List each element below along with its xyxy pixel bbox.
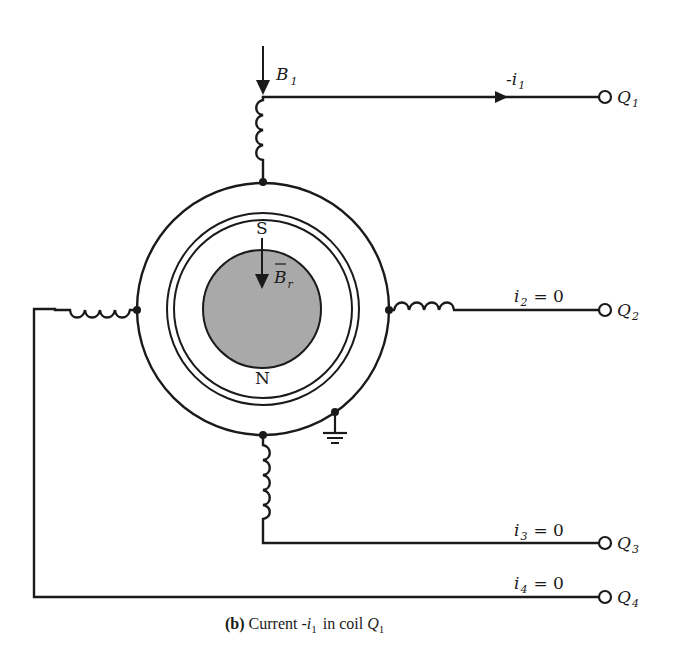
coil-q4-icon (34, 309, 599, 597)
terminal-label-q1: Q1 (617, 87, 639, 110)
node-top (259, 178, 267, 186)
terminal-label-q2: Q2 (617, 300, 639, 323)
figure-caption: (b)Current -i1in coilQ1 (225, 615, 384, 635)
terminal-label-q3: Q3 (617, 533, 639, 556)
terminal-label-q4: Q4 (617, 587, 639, 610)
north-pole-label: N (255, 368, 270, 388)
current-label-q4: i4= 0 (514, 573, 564, 596)
motor-diagram: B1 S N Br -i1 i2= 0 i3= 0 i4= 0 Q1 Q2 Q3… (0, 0, 673, 665)
coil-q1-icon (256, 97, 263, 183)
terminal-q1 (599, 91, 611, 103)
terminal-q4 (599, 591, 611, 603)
current-label-q2: i2= 0 (514, 286, 564, 309)
current-label-q3: i3= 0 (514, 520, 564, 543)
current-arrow-icon (495, 91, 508, 103)
terminal-q2 (599, 304, 611, 316)
terminal-q3 (599, 537, 611, 549)
b1-label: B1 (275, 64, 298, 88)
current-label-q1: -i1 (506, 69, 525, 92)
south-pole-label: S (256, 218, 268, 238)
b1-arrow-head-icon (256, 80, 270, 95)
coil-q2-icon (389, 303, 599, 311)
